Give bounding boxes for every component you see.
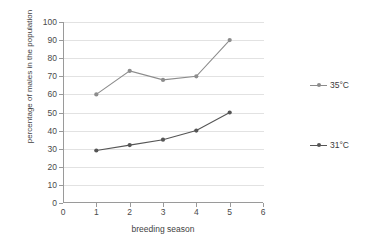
legend-item-35c: 35°C [310,80,349,90]
data-point [128,143,132,147]
data-point [94,92,98,96]
data-point [94,148,98,152]
data-point [228,38,232,42]
legend-item-31c: 31°C [310,140,349,150]
data-point [161,138,165,142]
data-point [228,110,232,114]
legend-label-31c: 31°C [330,140,349,150]
chart-screenshot: percentage of males in the population br… [0,0,373,245]
legend-marker-31c-icon [310,141,327,150]
series-line-1 [96,113,229,151]
data-point [194,129,198,133]
legend-label-35c: 35°C [330,80,349,90]
series-line-0 [96,40,229,94]
data-point [128,69,132,73]
series-layer [0,0,373,245]
data-point [194,74,198,78]
legend-marker-35c-icon [310,81,327,90]
data-point [161,78,165,82]
